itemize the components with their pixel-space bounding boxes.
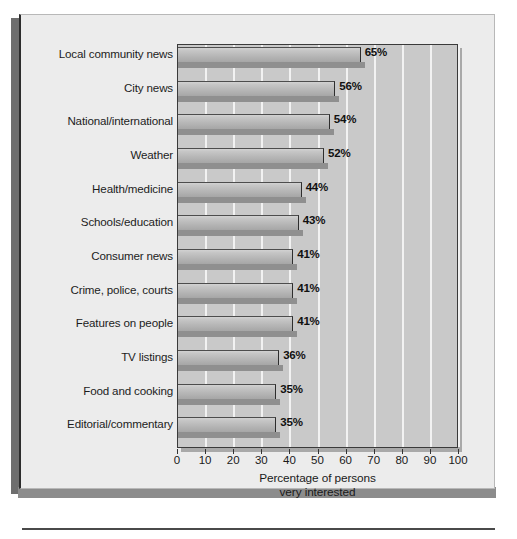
category-label: City news	[124, 81, 173, 94]
bar-value-label: 36%	[283, 349, 305, 361]
x-axis-title: Percentage of persons very interested	[177, 471, 458, 499]
category-label: National/international	[67, 114, 173, 127]
category-label: Consumer news	[91, 249, 173, 262]
category-label: Health/medicine	[92, 182, 173, 195]
bar-value-label: 52%	[328, 147, 350, 159]
x-tick-label-10: 10	[199, 454, 212, 466]
x-tick-label-60: 60	[339, 454, 352, 466]
category-label: Local community news	[59, 47, 173, 60]
x-tick-label-50: 50	[311, 454, 324, 466]
category-label: Food and cooking	[83, 384, 173, 397]
category-label: Crime, police, courts	[70, 283, 173, 296]
category-label: Schools/education	[81, 215, 173, 228]
bar-value-label: 65%	[365, 46, 387, 58]
x-tick-label-20: 20	[227, 454, 240, 466]
x-tick-label-90: 90	[423, 454, 436, 466]
bar-value-labels: 65%56%54%52%44%43%41%41%41%36%35%35%	[177, 44, 477, 448]
x-tick-label-100: 100	[448, 454, 467, 466]
bottom-rule	[22, 528, 495, 530]
bar-value-label: 54%	[334, 113, 356, 125]
x-axis-title-line2: very interested	[177, 485, 458, 499]
x-axis-title-line1: Percentage of persons	[177, 471, 458, 485]
category-label: Editorial/commentary	[67, 417, 173, 430]
x-tick-label-40: 40	[283, 454, 296, 466]
bar-value-label: 44%	[306, 181, 328, 193]
bar-value-label: 35%	[280, 416, 302, 428]
category-label: Features on people	[76, 316, 173, 329]
x-tick-label-30: 30	[255, 454, 268, 466]
bar-value-label: 35%	[280, 383, 302, 395]
bar-value-label: 56%	[339, 80, 361, 92]
x-tick-label-0: 0	[174, 454, 180, 466]
x-tick-label-80: 80	[395, 454, 408, 466]
category-label: TV listings	[121, 350, 173, 363]
chart-card: Local community newsCity newsNational/in…	[19, 14, 495, 489]
x-tick-label-70: 70	[367, 454, 380, 466]
category-label: Weather	[130, 148, 173, 161]
bar-value-label: 41%	[297, 315, 319, 327]
bar-value-label: 41%	[297, 282, 319, 294]
bar-value-label: 43%	[303, 214, 325, 226]
figure-root: Local community newsCity newsNational/in…	[0, 0, 517, 539]
bar-value-label: 41%	[297, 248, 319, 260]
category-axis-labels: Local community newsCity newsNational/in…	[21, 44, 173, 448]
